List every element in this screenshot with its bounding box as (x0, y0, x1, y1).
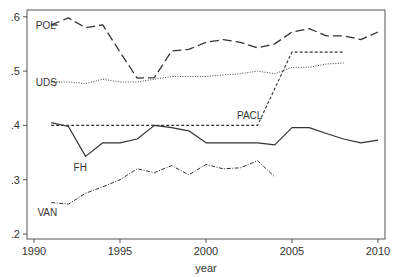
plot-frame (27, 10, 385, 239)
y-tick-label: .2 (11, 228, 20, 240)
series-line-pacl (51, 52, 343, 125)
series-label-uds: UDS (36, 77, 57, 88)
line-chart: .2.3.4.5.6 19901995200020052010 POLUDSPA… (0, 0, 399, 277)
x-tick-label: 2010 (366, 245, 390, 257)
y-tick-label: .4 (11, 119, 20, 131)
series-label-fh: FH (74, 162, 87, 173)
y-tick-label: .3 (11, 174, 20, 186)
x-axis-label: year (195, 262, 217, 274)
y-axis: .2.3.4.5.6 (11, 11, 27, 240)
x-tick-label: 2000 (194, 245, 218, 257)
x-tick-label: 2005 (280, 245, 304, 257)
series-layer (51, 18, 378, 204)
series-line-fh (51, 123, 378, 157)
y-tick-label: .6 (11, 11, 20, 23)
y-tick-label: .5 (11, 65, 20, 77)
x-tick-label: 1995 (108, 245, 132, 257)
chart-canvas: .2.3.4.5.6 19901995200020052010 POLUDSPA… (0, 0, 399, 277)
x-tick-label: 1990 (22, 245, 46, 257)
series-label-pacl: PACL (237, 110, 263, 121)
series-line-uds (51, 63, 343, 84)
x-axis: 19901995200020052010 (22, 239, 390, 257)
series-labels: POLUDSPACLFHVAN (36, 20, 263, 218)
series-label-pol: POL (36, 20, 56, 31)
series-line-pol (51, 18, 378, 78)
series-label-van: VAN (37, 207, 57, 218)
